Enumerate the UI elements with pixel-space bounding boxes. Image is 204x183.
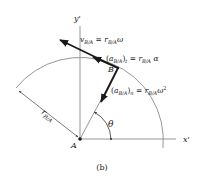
point-a-label: A: [70, 141, 77, 150]
tangential-accel-label: (aB/A)t = rB/A α: [106, 54, 158, 64]
point-b: [117, 67, 119, 69]
radius-label: rB/A: [39, 107, 56, 123]
point-a: [78, 137, 82, 141]
theta-start-dot: [110, 138, 112, 140]
point-b-label: B: [107, 65, 114, 74]
normal-accel-label: (aB/A)n = rB/Aω2: [111, 85, 167, 96]
velocity-label: vB/A = rB/Aω: [80, 35, 123, 45]
circular-path-arc: [16, 57, 163, 148]
relative-motion-diagram: y' x' A B θ rB/A vB/A = rB/Aω (aB/A)t = …: [0, 0, 204, 183]
y-axis-label: y': [73, 14, 81, 23]
figure-caption: (b): [96, 163, 107, 172]
x-axis-label: x': [183, 135, 190, 144]
theta-label: θ: [108, 119, 114, 129]
